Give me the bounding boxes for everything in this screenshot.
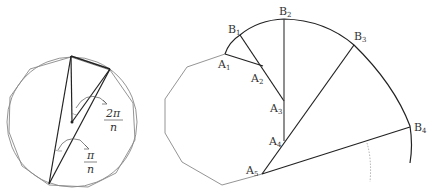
label-a5: A5 [245,164,258,178]
central-angle-denominator: n [110,121,117,134]
dotted-arc [367,143,371,182]
label-a2: A2 [250,72,263,86]
label-b1: B1 [228,23,241,37]
radius-line-2 [72,69,110,122]
inscribed-chord-1 [49,56,71,184]
left-diagram: 2π n π n [7,56,137,187]
segment-b1-a3 [240,35,284,101]
center-dot [71,121,74,124]
arc-a1-b1 [225,35,240,54]
inscribed-chord-2 [49,69,110,184]
label-a1: A1 [217,58,230,72]
outer-arc [240,19,412,163]
label-a4: A4 [268,135,282,149]
central-angle-numerator: 2π [105,107,121,120]
radius-line [71,56,72,122]
inscribed-angle-numerator: π [86,149,95,162]
label-a3: A3 [269,102,282,116]
label-b3: B3 [354,30,367,44]
right-diagram: A1 A2 A3 A4 A5 B1 B2 B3 B4 [165,5,427,185]
label-b4: B4 [414,121,427,135]
figure-canvas: 2π n π n A1 A2 A3 A4 A5 B1 B2 B3 B4 [0,0,435,195]
inscribed-angle-arrow [58,139,88,150]
central-angle-arrow [76,96,106,108]
inscribed-angle-denominator: n [87,163,94,176]
inscribed-angle-mark [55,150,62,151]
label-b2: B2 [279,5,292,19]
central-angle-mark [72,113,77,115]
side-chord [71,56,110,69]
